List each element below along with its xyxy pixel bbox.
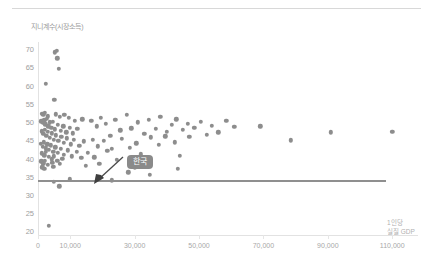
plot-area (38, 42, 418, 235)
data-point (56, 66, 60, 70)
data-point (289, 138, 293, 142)
data-point (153, 127, 157, 131)
data-point (69, 142, 73, 146)
y-tick-label: 25 (12, 209, 34, 218)
data-point (92, 155, 96, 159)
data-point (147, 118, 151, 122)
x-tick-mark (263, 235, 264, 239)
data-point (134, 141, 138, 145)
data-point (44, 81, 48, 85)
data-point (58, 129, 62, 133)
x-tick-mark (199, 235, 200, 239)
data-point (56, 151, 60, 155)
data-point (51, 120, 55, 124)
data-point (95, 144, 99, 148)
data-point (97, 161, 101, 165)
data-point (186, 121, 190, 125)
data-point (136, 120, 140, 124)
data-point (118, 128, 122, 132)
data-point (59, 134, 63, 138)
data-point (108, 133, 112, 137)
data-point (126, 170, 130, 174)
x-tick-label: 110,000 (380, 242, 405, 249)
data-point (169, 123, 173, 127)
data-point (205, 133, 209, 137)
data-point (55, 56, 59, 60)
data-point (192, 126, 196, 130)
data-point (65, 148, 69, 152)
x-tick-label: 50,000 (188, 242, 209, 249)
reference-line (38, 180, 386, 181)
data-point (129, 126, 133, 130)
data-point (44, 149, 48, 153)
data-point (42, 167, 46, 171)
data-point (124, 113, 128, 117)
data-point (70, 154, 74, 158)
data-point (51, 164, 55, 168)
data-point (329, 130, 333, 134)
x-tick-mark (328, 235, 329, 239)
annotation-badge-korea[interactable]: 한국 (127, 155, 153, 169)
data-point (73, 119, 77, 123)
x-tick-mark (135, 235, 136, 239)
data-point (59, 146, 63, 150)
data-point (53, 127, 57, 131)
y-tick-label: 20 (12, 227, 34, 236)
x-axis-title-line-1: 1인당 (387, 219, 415, 228)
data-point (57, 184, 61, 188)
data-point (94, 124, 98, 128)
data-point (102, 139, 106, 143)
y-tick-label: 70 (12, 45, 34, 54)
y-tick-label: 40 (12, 154, 34, 163)
top-divider-rule (12, 8, 421, 9)
x-axis-tick-labels: 010,00030,00050,00070,00090,000110,000 (0, 242, 433, 254)
data-point (53, 145, 57, 149)
data-point (65, 136, 69, 140)
y-tick-label: 55 (12, 99, 34, 108)
data-point (181, 128, 185, 132)
data-point (66, 116, 70, 120)
data-point (52, 97, 56, 101)
data-point (58, 162, 62, 166)
data-point (142, 132, 146, 136)
data-point (57, 114, 61, 118)
data-point (83, 164, 87, 168)
y-tick-label: 45 (12, 136, 34, 145)
data-point (60, 156, 64, 160)
y-tick-label: 50 (12, 118, 34, 127)
data-point (54, 49, 58, 53)
data-point (91, 138, 95, 142)
data-point (72, 138, 76, 142)
y-axis-title: 지니계수(시장소득) (31, 21, 84, 31)
x-tick-label: 70,000 (253, 242, 274, 249)
data-point (113, 117, 117, 121)
data-point (99, 116, 103, 120)
data-point (86, 150, 90, 154)
x-tick-label: 30,000 (124, 242, 145, 249)
data-point (390, 129, 394, 133)
x-tick-label: 90,000 (317, 242, 338, 249)
data-point (177, 153, 181, 157)
data-point (115, 157, 119, 161)
data-point (61, 124, 65, 128)
data-point (82, 139, 86, 143)
data-point (79, 156, 83, 160)
data-point (71, 131, 75, 135)
data-point (258, 124, 262, 128)
x-tick-label: 0 (36, 242, 40, 249)
data-point (67, 125, 71, 129)
data-point (232, 125, 236, 129)
data-point (148, 173, 152, 177)
data-point (158, 114, 162, 118)
data-point (62, 141, 66, 145)
x-axis-line (38, 235, 418, 236)
data-point (216, 130, 220, 134)
data-point (198, 120, 202, 124)
data-point (120, 136, 124, 140)
data-point (56, 139, 60, 143)
y-tick-label: 35 (12, 172, 34, 181)
y-tick-label: 30 (12, 190, 34, 199)
data-point (165, 129, 169, 133)
data-point (75, 126, 79, 130)
data-point (128, 145, 132, 149)
